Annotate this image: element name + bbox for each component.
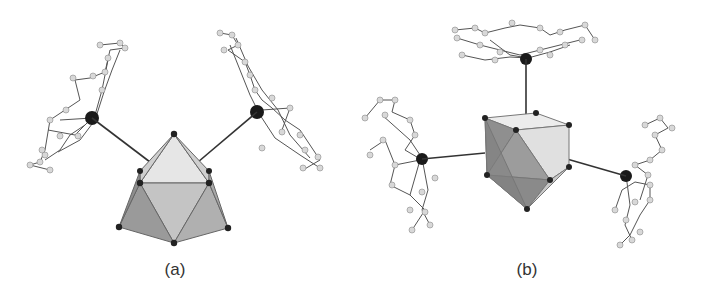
ligand-right-b — [615, 118, 668, 245]
figure-panel-b: (b) — [350, 0, 701, 301]
molecule-b-diagram — [350, 0, 701, 301]
polyhedron-b — [485, 113, 569, 209]
molecule-a-diagram — [0, 0, 350, 301]
caption-a: (a) — [145, 260, 205, 280]
figure-panel-a: (a) — [0, 0, 350, 301]
caption-b: (b) — [497, 260, 557, 280]
